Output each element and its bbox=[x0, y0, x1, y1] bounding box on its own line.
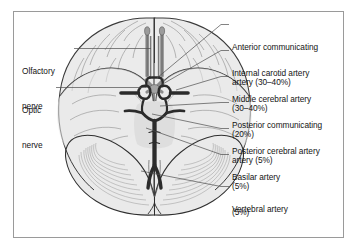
label-optic-nerve-line1: Optic bbox=[22, 105, 43, 117]
label-optic-nerve-line2: nerve bbox=[22, 140, 43, 152]
label-vertebral-artery: Vertebral artery bbox=[232, 181, 288, 239]
label-optic-nerve: Optic nerve bbox=[22, 82, 43, 175]
figure-root: Olfactory nerve Optic nerve Anterior com… bbox=[0, 0, 359, 251]
label-vertebral-artery-line1: Vertebral artery bbox=[232, 204, 288, 216]
label-olfactory-nerve-line1: Olfactory bbox=[22, 66, 55, 78]
